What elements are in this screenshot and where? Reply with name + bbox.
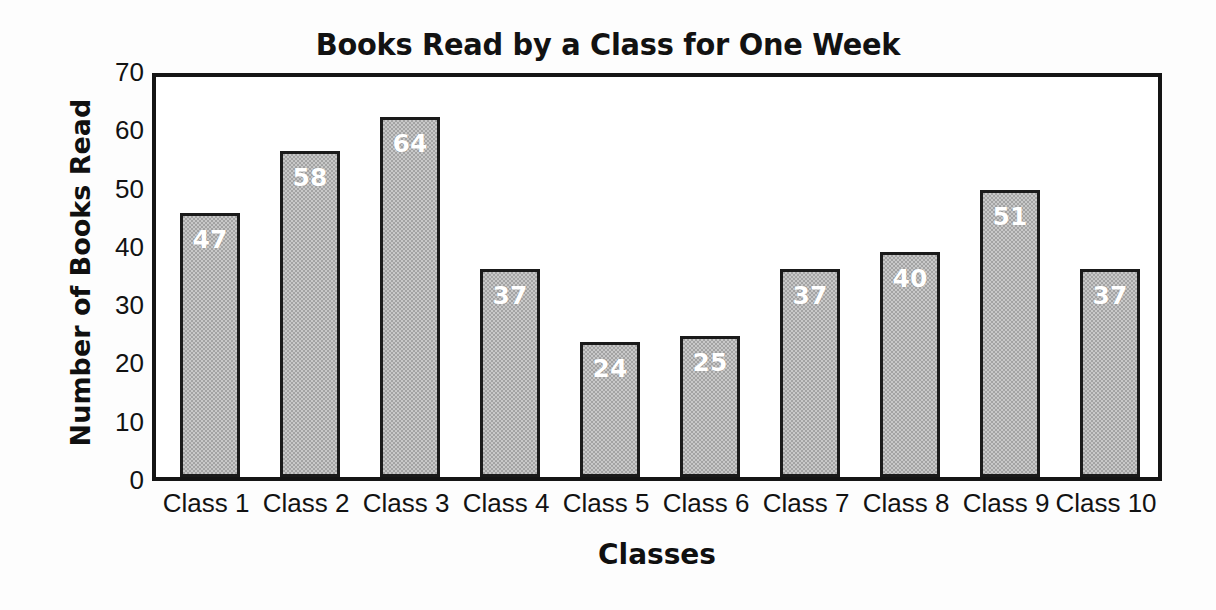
x-axis-tick-10: Class 10 (1036, 488, 1176, 519)
bar-value-label-5: 24 (583, 354, 637, 383)
y-axis-tick-70: 70 (88, 59, 144, 85)
bar-value-label-10: 37 (1083, 281, 1137, 310)
bar-value-label-2: 58 (283, 163, 337, 192)
bar-value-label-4: 37 (483, 281, 537, 310)
bar-1[interactable]: 47 (180, 213, 240, 477)
bars-container: 47586437242537405137 (156, 77, 1158, 477)
x-axis-title: Classes (152, 538, 1162, 571)
chart-page: Books Read by a Class for One Week Numbe… (0, 0, 1216, 610)
y-axis-tick-50: 50 (88, 176, 144, 202)
bar-3[interactable]: 64 (380, 117, 440, 477)
bar-9[interactable]: 51 (980, 190, 1040, 477)
bar-5[interactable]: 24 (580, 342, 640, 477)
bar-8[interactable]: 40 (880, 252, 940, 477)
y-axis-tick-20: 20 (88, 350, 144, 376)
bar-value-label-8: 40 (883, 264, 937, 293)
y-axis-tick-30: 30 (88, 292, 144, 318)
plot-area: 47586437242537405137 (152, 73, 1162, 481)
chart-title: Books Read by a Class for One Week (43, 26, 1174, 62)
bar-4[interactable]: 37 (480, 269, 540, 477)
bar-value-label-3: 64 (383, 129, 437, 158)
bar-value-label-6: 25 (683, 348, 737, 377)
bar-2[interactable]: 58 (280, 151, 340, 477)
bar-value-label-9: 51 (983, 202, 1037, 231)
bar-value-label-7: 37 (783, 281, 837, 310)
y-axis-tick-60: 60 (88, 117, 144, 143)
bar-10[interactable]: 37 (1080, 269, 1140, 477)
y-axis-tick-10: 10 (88, 409, 144, 435)
bar-6[interactable]: 25 (680, 336, 740, 477)
y-axis-tick-40: 40 (88, 234, 144, 260)
bar-value-label-1: 47 (183, 225, 237, 254)
bar-7[interactable]: 37 (780, 269, 840, 477)
